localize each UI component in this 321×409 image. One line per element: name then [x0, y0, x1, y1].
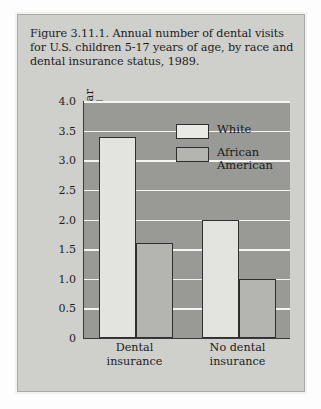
- bar-african-american: [136, 243, 173, 338]
- y-axis-tick-label: 1.0: [59, 272, 77, 285]
- x-axis-category-labels: Dental insuranceNo dental insurance: [83, 341, 291, 375]
- y-axis-tick-label: 1.5: [59, 243, 77, 256]
- legend-item-white: White: [176, 123, 288, 139]
- figure-page: Figure 3.11.1. Annual number of dental v…: [0, 0, 321, 409]
- legend-item-african-american: African American: [176, 146, 288, 172]
- y-axis-tick-label: 4.0: [59, 95, 77, 108]
- y-axis-tick-label: 2.5: [59, 183, 77, 196]
- legend-swatch-african-american: [176, 147, 209, 162]
- figure-caption: Figure 3.11.1. Annual number of dental v…: [30, 27, 296, 70]
- bar-african-american: [239, 279, 276, 338]
- bar-white: [99, 137, 136, 338]
- x-axis-label: No dental insurance: [186, 341, 289, 369]
- y-axis-tick-label: 2.0: [59, 213, 77, 226]
- y-axis-tick-label: 0.5: [59, 302, 77, 315]
- legend-label-white: White: [217, 123, 251, 136]
- legend-label-african-american: African American: [217, 146, 273, 172]
- y-axis-tick-label: 0: [69, 332, 76, 345]
- y-axis-tick-labels: 4.03.53.02.52.01.51.00.50: [48, 101, 76, 338]
- bar-chart: Number of dental visits per year 4.03.53…: [30, 77, 296, 377]
- x-axis-label: Dental insurance: [83, 341, 186, 369]
- gridline: [84, 101, 290, 103]
- chart-legend: White African American: [176, 123, 288, 179]
- legend-swatch-white: [176, 124, 209, 139]
- y-axis-tick-label: 3.0: [59, 154, 77, 167]
- y-axis-tick-label: 3.5: [59, 124, 77, 137]
- plot-area: White African American: [83, 101, 290, 339]
- bar-white: [202, 220, 239, 339]
- figure-card: Figure 3.11.1. Annual number of dental v…: [17, 14, 305, 392]
